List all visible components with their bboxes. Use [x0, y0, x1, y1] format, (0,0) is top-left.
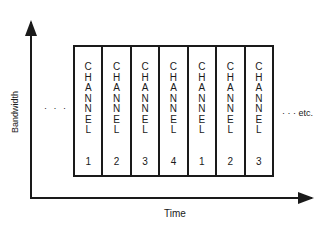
channel-label: C H A N N E L	[217, 62, 243, 136]
leading-ellipsis: · · ·	[44, 103, 68, 113]
channel-slot: C H A N N E L 1	[75, 47, 103, 175]
channel-number: 2	[217, 156, 243, 167]
tdm-diagram: Bandwidth Time · · · · · · etc. C H A N …	[0, 0, 336, 233]
letter: L	[103, 125, 129, 136]
letter: A	[132, 83, 158, 94]
letter: C	[132, 62, 158, 73]
letter: C	[217, 62, 243, 73]
letter: C	[75, 62, 101, 73]
y-axis-label: Bandwidth	[10, 91, 20, 133]
channel-number: 1	[189, 156, 215, 167]
letter: L	[132, 125, 158, 136]
channel-slot: C H A N N E L 2	[103, 47, 131, 175]
letter: N	[160, 104, 186, 115]
channel-slot: C H A N N E L 3	[246, 47, 272, 175]
letter: N	[246, 104, 272, 115]
channel-frame: C H A N N E L 1 C H A N N E L 2	[73, 45, 274, 177]
letter: C	[103, 62, 129, 73]
channel-label: C H A N N E L	[75, 62, 101, 136]
letter: L	[160, 125, 186, 136]
letter: A	[246, 83, 272, 94]
channel-number: 3	[246, 156, 272, 167]
letter: A	[75, 83, 101, 94]
channel-number: 3	[132, 156, 158, 167]
letter: L	[246, 125, 272, 136]
letter: C	[246, 62, 272, 73]
channel-slot: C H A N N E L 4	[160, 47, 188, 175]
channel-label: C H A N N E L	[246, 62, 272, 136]
channel-number: 4	[160, 156, 186, 167]
x-axis-label: Time	[164, 208, 186, 219]
channel-number: 2	[103, 156, 129, 167]
channel-label: C H A N N E L	[103, 62, 129, 136]
letter: N	[103, 104, 129, 115]
letter: A	[217, 83, 243, 94]
letter: A	[160, 83, 186, 94]
channel-slot: C H A N N E L 3	[132, 47, 160, 175]
letter: N	[189, 104, 215, 115]
letter: L	[75, 125, 101, 136]
letter: N	[217, 104, 243, 115]
channel-label: C H A N N E L	[132, 62, 158, 136]
channel-label: C H A N N E L	[189, 62, 215, 136]
channel-slot: C H A N N E L 2	[217, 47, 245, 175]
trailing-etc: · · · etc.	[282, 108, 313, 118]
letter: A	[189, 83, 215, 94]
letter: N	[75, 104, 101, 115]
letter: N	[132, 104, 158, 115]
letter: A	[103, 83, 129, 94]
channel-slot: C H A N N E L 1	[189, 47, 217, 175]
letter: L	[217, 125, 243, 136]
channel-label: C H A N N E L	[160, 62, 186, 136]
letter: C	[189, 62, 215, 73]
channel-number: 1	[75, 156, 101, 167]
letter: L	[189, 125, 215, 136]
letter: C	[160, 62, 186, 73]
